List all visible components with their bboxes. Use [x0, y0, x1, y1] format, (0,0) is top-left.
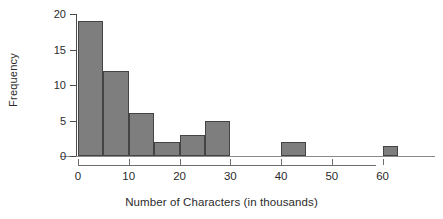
histogram-bar	[154, 142, 179, 156]
histogram-bar	[205, 121, 230, 157]
x-tick-label: 30	[215, 170, 245, 182]
x-tick-mark	[78, 159, 79, 165]
y-tick-label: 15	[40, 44, 66, 56]
y-tick-label: 5	[40, 115, 66, 127]
plot-baseline	[60, 156, 435, 157]
y-tick-label: 0	[40, 150, 66, 162]
histogram-figure: Frequency 05101520 0102030405060 Number …	[0, 0, 443, 219]
x-tick-mark	[281, 159, 282, 165]
y-tick-label: 10	[40, 79, 66, 91]
y-tick-label: 20	[40, 8, 66, 20]
x-tick-mark	[383, 159, 384, 165]
x-tick-label: 40	[266, 170, 296, 182]
y-axis-label: Frequency	[4, 20, 22, 140]
y-axis-spine	[76, 14, 77, 157]
histogram-bar	[129, 113, 154, 156]
histogram-bar	[180, 135, 205, 156]
x-tick-label: 50	[317, 170, 347, 182]
y-tick-mark	[70, 121, 76, 122]
x-tick-mark	[129, 159, 130, 165]
x-axis-spine	[78, 165, 376, 166]
x-tick-label: 60	[368, 170, 398, 182]
x-tick-label: 20	[165, 170, 195, 182]
y-tick-mark	[70, 156, 76, 157]
y-tick-mark	[70, 50, 76, 51]
x-axis-label: Number of Characters (in thousands)	[0, 196, 443, 208]
x-tick-mark	[180, 159, 181, 165]
x-tick-mark	[332, 159, 333, 165]
histogram-bars	[78, 14, 408, 156]
x-tick-mark	[230, 159, 231, 165]
histogram-bar	[78, 21, 103, 156]
y-tick-mark	[70, 85, 76, 86]
y-axis-label-text: Frequency	[7, 53, 19, 107]
histogram-bar	[383, 146, 398, 156]
x-tick-label: 0	[63, 170, 93, 182]
histogram-bar	[281, 142, 306, 156]
y-tick-mark	[70, 14, 76, 15]
histogram-bar	[103, 71, 128, 156]
x-tick-label: 10	[114, 170, 144, 182]
